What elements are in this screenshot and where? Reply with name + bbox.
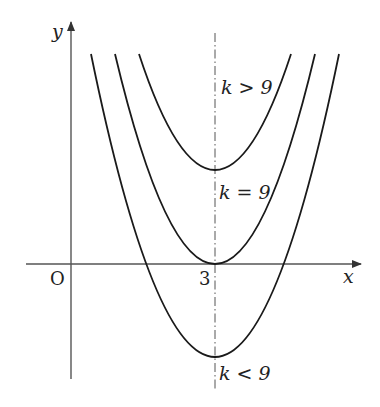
label-k-less-9: k < 9 — [219, 362, 271, 384]
label-k-greater-9: k > 9 — [221, 76, 273, 98]
tick-label-3: 3 — [199, 268, 210, 289]
x-axis-label: x — [343, 265, 354, 287]
origin-label: O — [50, 268, 65, 289]
label-k-equal-9: k = 9 — [219, 181, 271, 203]
y-axis-label: y — [51, 20, 63, 42]
parabola-diagram: y x O 3 k > 9 k = 9 k < 9 — [0, 0, 380, 407]
